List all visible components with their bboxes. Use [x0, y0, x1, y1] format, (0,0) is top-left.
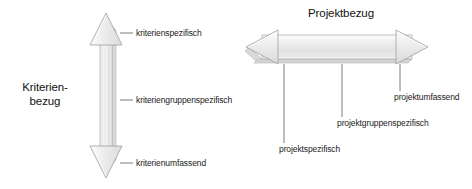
- horizontal-axis-leader-lines: [284, 64, 400, 143]
- vertical-arrow-shadow: [112, 26, 116, 164]
- tick-label-projektgruppenspezifisch: projektgruppenspezifisch: [337, 118, 429, 129]
- tick-label-projektumfassend: projektumfassend: [394, 92, 460, 103]
- axis-title-kriterienbezug-line2: bezug: [6, 94, 84, 108]
- vertical-arrow-shaft: [100, 26, 112, 164]
- vertical-axis-leader-lines: [120, 33, 133, 163]
- axis-title-projektbezug: Projektbezug: [296, 6, 386, 20]
- tick-label-kriterienspezifisch: kriterienspezifisch: [136, 28, 202, 39]
- diagram-canvas: Kriterien- bezug kriterienspezifisch kri…: [0, 0, 472, 189]
- horizontal-arrow-shaft: [262, 35, 412, 59]
- axis-title-kriterienbezug-line1: Kriterien-: [6, 80, 84, 94]
- horizontal-arrow: [245, 30, 428, 64]
- tick-label-kriteriengruppenspezifisch: kriteriengruppenspezifisch: [136, 95, 232, 106]
- axis-title-kriterienbezug: Kriterien- bezug: [6, 80, 84, 108]
- vertical-arrow: [90, 13, 122, 178]
- tick-label-kriterienumfassend: kriterienumfassend: [136, 158, 206, 169]
- tick-label-projektspezifisch: projektspezifisch: [279, 144, 340, 155]
